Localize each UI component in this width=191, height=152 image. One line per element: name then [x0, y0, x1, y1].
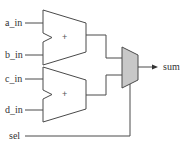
- adder-top: +: [43, 10, 86, 65]
- label-d-in: d_in: [5, 104, 23, 115]
- label-sum: sum: [163, 61, 180, 72]
- label-c-in: c_in: [5, 73, 22, 84]
- wire-adder-bottom-to-mux: [86, 75, 122, 95]
- wire-adder-top-to-mux: [86, 35, 122, 58]
- adder-bottom: +: [43, 67, 86, 122]
- label-b-in: b_in: [5, 49, 23, 60]
- circuit-diagram: a_in b_in c_in d_in sel + + sum: [0, 0, 191, 152]
- plus-symbol-top: +: [62, 32, 67, 42]
- mux-shape: [122, 47, 138, 88]
- arrow-head-icon: [152, 65, 158, 70]
- label-sel: sel: [9, 130, 20, 141]
- label-a-in: a_in: [5, 17, 22, 28]
- plus-symbol-bottom: +: [62, 89, 67, 99]
